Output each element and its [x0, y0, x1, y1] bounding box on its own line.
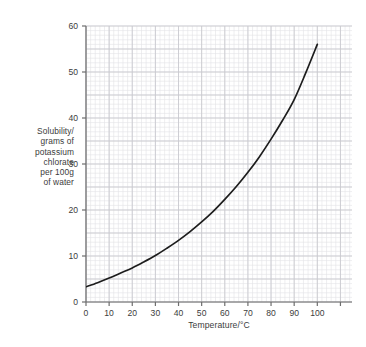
- solubility-chart: Solubility/ grams of potassium chlorate …: [0, 0, 366, 347]
- y-tick-label: 0: [52, 297, 78, 307]
- y-tick-label: 30: [52, 159, 78, 169]
- y-tick-label: 50: [52, 67, 78, 77]
- plot-svg: [0, 0, 366, 347]
- y-tick-label: 60: [52, 21, 78, 31]
- y-tick-label: 40: [52, 113, 78, 123]
- x-tick-label: 100: [302, 308, 332, 318]
- y-tick-label: 20: [52, 205, 78, 215]
- y-tick-label: 10: [52, 251, 78, 261]
